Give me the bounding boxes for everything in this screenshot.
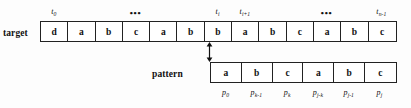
ellipsis-marker: ••• xyxy=(321,8,333,18)
target-cell: a xyxy=(150,22,177,41)
target-index-label: ti+1 xyxy=(240,7,250,16)
target-cell: a xyxy=(314,22,341,41)
pattern-index-label: pk-1 xyxy=(251,88,262,97)
pattern-index-label: pj xyxy=(377,88,383,97)
pattern-cell: c xyxy=(365,63,396,82)
pattern-index-label: pk xyxy=(284,88,290,97)
target-cell: b xyxy=(259,22,286,41)
pattern-cell: c xyxy=(273,63,304,82)
target-cell: c xyxy=(123,22,150,41)
target-cell: b xyxy=(177,22,204,41)
pattern-cell-strip: abcabc xyxy=(210,62,397,83)
target-cell: a xyxy=(68,22,95,41)
target-cell: b xyxy=(341,22,368,41)
alignment-arrow-icon xyxy=(204,42,215,62)
string-matching-diagram: target dabcabbabcabc pattern abcabc t0ti… xyxy=(0,0,411,108)
target-cell: a xyxy=(232,22,259,41)
target-index-label: ti xyxy=(216,7,220,16)
target-index-label: tn-1 xyxy=(376,7,386,16)
pattern-cell: b xyxy=(334,63,365,82)
target-index-label: t0 xyxy=(51,7,56,16)
target-cell: c xyxy=(369,22,396,41)
ellipsis-marker: ••• xyxy=(130,8,142,18)
pattern-index-label: p0 xyxy=(222,88,229,97)
target-cell: d xyxy=(41,22,68,41)
target-cell: c xyxy=(287,22,314,41)
target-cell-strip: dabcabbabcabc xyxy=(40,21,397,42)
pattern-cell: a xyxy=(211,63,242,82)
target-cell: b xyxy=(96,22,123,41)
pattern-cell: a xyxy=(303,63,334,82)
pattern-index-label: pj-k xyxy=(313,88,323,97)
pattern-cell: b xyxy=(242,63,273,82)
target-row-label: target xyxy=(3,28,28,38)
target-cell: b xyxy=(205,22,232,41)
pattern-index-label: pj-1 xyxy=(343,88,353,97)
pattern-row-label: pattern xyxy=(152,69,183,79)
